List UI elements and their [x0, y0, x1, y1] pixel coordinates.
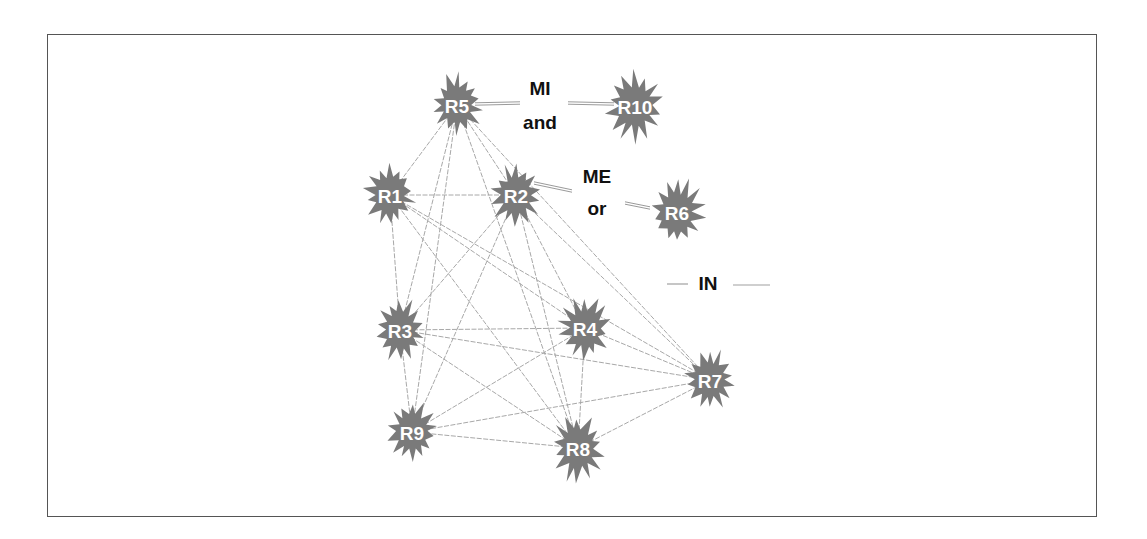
edge-r5-r9 — [412, 105, 457, 432]
special-edge-me — [625, 204, 650, 209]
node-r4: R4 — [557, 298, 610, 360]
edge-r9-r7 — [412, 380, 710, 432]
edge-r9-r8 — [412, 432, 578, 448]
legend-and-label: and — [523, 112, 557, 133]
edge-layer — [390, 105, 710, 448]
node-label: R5 — [445, 96, 470, 117]
special-edge-mi — [568, 102, 614, 103]
legend-in-label: IN — [699, 273, 718, 294]
node-label: R7 — [698, 371, 722, 392]
node-label: R2 — [504, 186, 528, 207]
legend-me-or: ME or — [583, 166, 612, 219]
node-r8: R8 — [554, 417, 605, 484]
edge-r3-r7 — [400, 330, 710, 380]
node-r10: R10 — [605, 69, 663, 145]
special-edge-mi — [475, 102, 520, 103]
edge-r1-r4 — [390, 195, 585, 328]
edge-r5-r8 — [457, 105, 578, 448]
edge-r4-r7 — [585, 328, 710, 380]
node-label: R10 — [618, 97, 653, 118]
special-edge-mi — [475, 104, 520, 105]
node-label: R8 — [566, 439, 590, 460]
node-r1: R1 — [363, 163, 416, 224]
node-label: R3 — [388, 321, 412, 342]
legend-or-label: or — [588, 198, 608, 219]
node-r6: R6 — [652, 178, 707, 239]
network-graph: R5R10R1R2R6R3R4R7R9R8 MI and ME or IN — [0, 0, 1147, 539]
legend-me-label: ME — [583, 166, 612, 187]
node-r7: R7 — [684, 349, 735, 407]
legend-mi-label: MI — [529, 78, 550, 99]
node-r9: R9 — [388, 402, 437, 462]
legend-in: IN — [667, 273, 770, 294]
legend-mi-and: MI and — [523, 78, 557, 133]
node-label: R9 — [400, 423, 424, 444]
node-label: R4 — [573, 319, 598, 340]
special-edge-mi — [568, 104, 614, 105]
special-edge-me — [625, 202, 650, 207]
node-label: R1 — [378, 186, 403, 207]
edge-r8-r7 — [578, 380, 710, 448]
edge-r2-r3 — [400, 195, 516, 330]
edge-r3-r4 — [400, 328, 585, 330]
node-label: R6 — [665, 203, 689, 224]
